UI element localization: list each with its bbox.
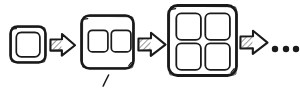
stage-2-group[interactable]: 2 cells cell 2 cells [82, 16, 134, 69]
arrow-2-tail-shading [139, 39, 151, 50]
arrow-1[interactable]: subdivide [50, 34, 75, 56]
stage-1-group[interactable]: 1 cell [11, 27, 46, 63]
stage-3-cell-3-hatching [176, 43, 201, 70]
stage-2-cell-2-hatching [111, 30, 131, 52]
stage-3-cell-1[interactable]: 4 cells [176, 13, 201, 40]
arrow-1-tail-shading [51, 40, 62, 50]
stage-1-cell-1-hatching [16, 32, 40, 57]
stage-2-cell-1[interactable]: 2 cells [88, 30, 108, 52]
stage-1-cell-1[interactable] [16, 32, 40, 57]
stage-3-group[interactable]: 4 cells cell cell [169, 6, 237, 76]
stage-3-cell-4[interactable]: cell [205, 43, 230, 70]
stage-2-corner-nick [84, 19, 88, 20]
stage-3-cell-1-hatching [176, 13, 201, 40]
ellipsis-dot-1 [272, 46, 278, 52]
stage-2-cell-2[interactable]: cell [111, 30, 131, 52]
subdivision-progression-svg: 1 cell subdivide 2 cells [0, 0, 300, 91]
stage-3-cell-2-hatching [205, 13, 230, 40]
diagram-canvas: Hand-drawn subdivision progression diagr… [0, 0, 300, 91]
arrow-3-tail-shading [241, 37, 253, 48]
ellipsis-dot-2 [283, 46, 289, 52]
stage-2-cell-1-hatching [88, 30, 108, 52]
ellipsis-dot-3 [293, 46, 299, 52]
stage-2-annotation-tick [103, 75, 108, 86]
stage-3-cell-4-hatching [205, 43, 230, 70]
arrow-3[interactable]: subdivide [240, 31, 267, 54]
stage-3-cell-3[interactable]: cell [176, 43, 201, 70]
arrow-2[interactable]: subdivide [138, 33, 165, 56]
stage-3-corner-nick [171, 9, 175, 10]
continuation-ellipsis: continues [272, 46, 299, 52]
stage-3-cell-2[interactable]: cell [205, 13, 230, 40]
